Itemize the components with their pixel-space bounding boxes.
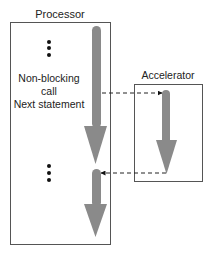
call-label: call — [41, 85, 57, 97]
processor-thread-arrow-1 — [84, 26, 107, 164]
nonblocking-call-diagram: Processor Non-blocking call Next stateme… — [0, 0, 209, 257]
processor-thread-arrow-2 — [84, 169, 107, 237]
accelerator-thread-arrow — [156, 90, 177, 174]
nonblocking-label: Non-blocking — [18, 72, 79, 84]
ellipsis-dots-top — [47, 40, 51, 57]
processor-title: Processor — [35, 8, 85, 20]
next-statement-label: Next statement — [14, 98, 85, 110]
ellipsis-dots-bottom — [47, 164, 51, 182]
accelerator-title: Accelerator — [141, 69, 195, 81]
